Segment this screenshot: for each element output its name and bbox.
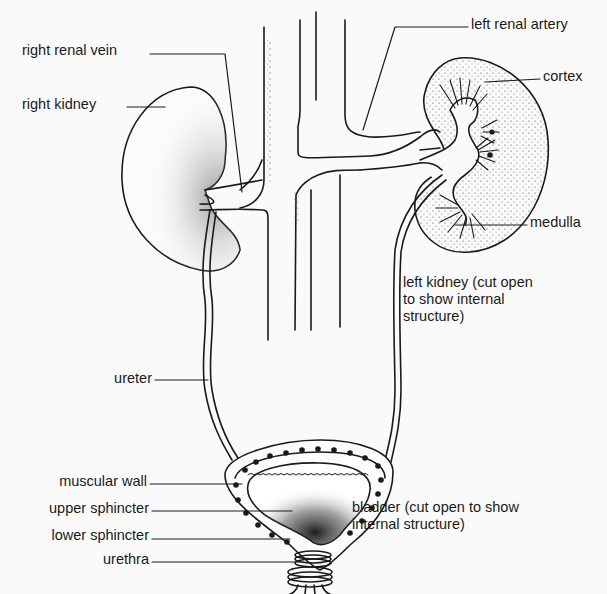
label-bladder-line2: internal structure) <box>352 516 519 533</box>
aorta <box>295 12 420 330</box>
label-lower-sphincter: lower sphincter <box>51 527 149 544</box>
label-urethra: urethra <box>103 551 149 568</box>
label-left-kidney-line2: to show internal <box>403 291 533 308</box>
label-upper-sphincter: upper sphincter <box>49 500 149 517</box>
label-bladder: bladder (cut open to show internal struc… <box>352 499 519 533</box>
lower-sphincter <box>288 567 332 587</box>
label-left-kidney-line1: left kidney (cut open <box>403 274 533 291</box>
right-kidney <box>122 87 240 271</box>
label-left-kidney: left kidney (cut open to show internal s… <box>403 274 533 325</box>
label-medulla: medulla <box>530 214 581 231</box>
label-cortex: cortex <box>543 68 583 85</box>
label-right-renal-vein: right renal vein <box>22 42 117 59</box>
left-kidney <box>415 58 549 252</box>
label-muscular-wall: muscular wall <box>59 473 147 490</box>
label-ureter: ureter <box>114 370 152 387</box>
label-right-kidney: right kidney <box>22 96 96 113</box>
label-left-kidney-line3: structure) <box>403 308 533 325</box>
label-left-renal-artery: left renal artery <box>471 16 568 33</box>
label-bladder-line1: bladder (cut open to show <box>352 499 519 516</box>
